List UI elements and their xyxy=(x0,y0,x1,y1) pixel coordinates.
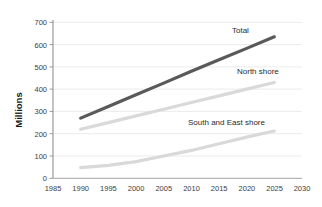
x-tick-label-2005: 2005 xyxy=(155,184,172,193)
y-tick-label-200: 200 xyxy=(34,130,47,139)
y-tick-label-400: 400 xyxy=(34,85,47,94)
x-tick-label-2030: 2030 xyxy=(294,184,311,193)
y-axis-tick-labels: 700 600 500 400 300 200 100 0 xyxy=(34,18,47,183)
series-label-total: Total xyxy=(232,26,249,35)
x-axis-tick-labels: 1985 1990 1995 2000 2005 2010 2015 2020 … xyxy=(45,184,311,193)
x-tick-label-2025: 2025 xyxy=(266,184,283,193)
series-label-north-shore: North shore xyxy=(237,67,279,76)
x-tick-label-2010: 2010 xyxy=(183,184,200,193)
series-line-south-and-east-shore xyxy=(81,131,275,168)
line-chart: 700 600 500 400 300 200 100 0 1985 1990 … xyxy=(0,0,322,207)
x-tick-label-1990: 1990 xyxy=(72,184,89,193)
x-tick-label-2015: 2015 xyxy=(211,184,228,193)
y-tick-label-100: 100 xyxy=(34,152,47,161)
y-tick-label-0: 0 xyxy=(43,174,47,183)
y-tick-label-300: 300 xyxy=(34,107,47,116)
x-tick-label-1985: 1985 xyxy=(45,184,62,193)
y-tick-label-500: 500 xyxy=(34,63,47,72)
x-tick-label-2020: 2020 xyxy=(239,184,256,193)
series-lines xyxy=(81,37,275,168)
x-tick-label-1995: 1995 xyxy=(100,184,117,193)
chart-svg: 700 600 500 400 300 200 100 0 1985 1990 … xyxy=(0,0,322,207)
series-label-south-and-east-shore: South and East shore xyxy=(188,118,265,127)
x-tick-label-2000: 2000 xyxy=(128,184,145,193)
y-tick-label-700: 700 xyxy=(34,18,47,27)
y-axis-title: Millions xyxy=(13,92,24,127)
y-tick-label-600: 600 xyxy=(34,41,47,50)
